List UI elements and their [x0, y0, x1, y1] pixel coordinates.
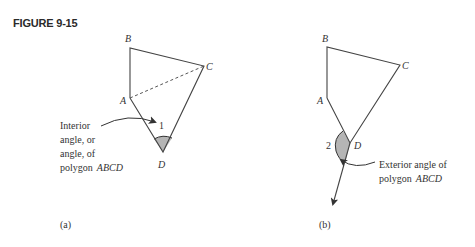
interior-annotation-polygon-word: polygon: [60, 162, 93, 173]
interior-annotation-line2: angle, or: [60, 134, 96, 145]
caption-a: (a): [60, 219, 71, 231]
interior-annotation-polygon-name: ABCD: [96, 162, 124, 173]
angle-2-label: 2: [326, 140, 331, 151]
figure-canvas: B C A D 1 Interior angle, or angle, of p…: [0, 0, 475, 247]
exterior-angle-shade: [335, 131, 350, 163]
polygon-abcd-b: [327, 47, 400, 143]
panel-a: B C A D 1 Interior angle, or angle, of p…: [60, 33, 213, 231]
caption-b: (b): [319, 219, 331, 231]
vertex-label-d: D: [157, 159, 166, 170]
exterior-leader-arrow: [341, 160, 375, 166]
vertex-label-b: B: [125, 33, 131, 44]
vertex-label-a: A: [316, 95, 324, 106]
vertex-label-c: C: [206, 61, 213, 72]
diagonal-ac-dashed: [130, 66, 204, 98]
exterior-annotation-polygon-name: ABCD: [415, 173, 443, 184]
panel-b: B C A D 2 Exterior angle of polygonABCD …: [316, 33, 447, 231]
interior-annotation-line4: polygonABCD: [60, 162, 124, 173]
vertex-label-a: A: [119, 95, 127, 106]
exterior-annotation-line2: polygonABCD: [379, 173, 443, 184]
angle-1-label: 1: [159, 120, 164, 131]
vertex-label-c: C: [402, 60, 409, 71]
interior-annotation-line1: Interior: [60, 120, 91, 131]
interior-annotation-line3: angle, of: [60, 148, 96, 159]
vertex-label-b: B: [322, 33, 328, 44]
exterior-annotation-polygon-word: polygon: [379, 173, 412, 184]
exterior-annotation-line1: Exterior angle of: [379, 159, 447, 170]
vertex-label-d: D: [353, 140, 362, 151]
